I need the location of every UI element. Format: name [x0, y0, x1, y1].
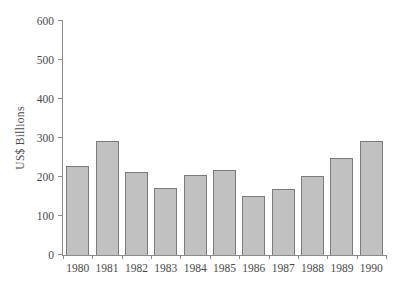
x-axis-label-1986: 1986 [242, 262, 265, 274]
x-axis-tick [298, 255, 299, 259]
y-axis-tick-label: 400 [20, 92, 54, 106]
y-axis-tick-label: 300 [20, 131, 54, 145]
y-axis-tick [58, 59, 63, 60]
x-axis-label-1985: 1985 [213, 262, 236, 274]
x-axis-tick [239, 255, 240, 259]
x-axis-label-1983: 1983 [154, 262, 177, 274]
x-axis-label-1984: 1984 [184, 262, 207, 274]
x-axis-tick [327, 255, 328, 259]
bar-1981 [96, 141, 119, 255]
bar-1989 [330, 158, 353, 255]
x-axis-tick [269, 255, 270, 259]
x-axis-label-1982: 1982 [125, 262, 148, 274]
x-axis-tick [180, 255, 181, 259]
x-axis-tick [386, 255, 387, 259]
x-axis-tick [122, 255, 123, 259]
x-axis-tick [92, 255, 93, 259]
x-axis-tick [357, 255, 358, 259]
bar-1988 [301, 176, 324, 255]
x-axis-label-1990: 1990 [360, 262, 383, 274]
bar-1986 [242, 196, 265, 255]
bar-1983 [154, 188, 177, 255]
x-axis-tick [63, 255, 64, 259]
x-axis-label-1989: 1989 [330, 262, 353, 274]
y-axis-tick [58, 215, 63, 216]
x-axis-tick [151, 255, 152, 259]
y-axis-tick-label: 200 [20, 170, 54, 184]
bar-1987 [272, 189, 295, 255]
bar-1984 [184, 175, 207, 255]
y-axis-tick [58, 137, 63, 138]
bar-1982 [125, 172, 148, 255]
plot-area: 0100200300400500600198019811982198319841… [62, 21, 386, 256]
y-axis-tick-label: 0 [20, 248, 54, 262]
x-axis-tick [210, 255, 211, 259]
y-axis-tick-label: 100 [20, 209, 54, 223]
y-axis-tick [58, 20, 63, 21]
bar-1990 [360, 141, 383, 255]
x-axis-label-1987: 1987 [272, 262, 295, 274]
y-axis-tick-label: 600 [20, 14, 54, 28]
x-axis-label-1980: 1980 [66, 262, 89, 274]
bar-1985 [213, 170, 236, 255]
y-axis-tick [58, 176, 63, 177]
x-axis-label-1981: 1981 [96, 262, 119, 274]
y-axis-tick-label: 500 [20, 53, 54, 67]
bar-chart: US$ Billions 010020030040050060019801981… [0, 0, 396, 293]
y-axis-tick [58, 98, 63, 99]
x-axis-label-1988: 1988 [301, 262, 324, 274]
bar-1980 [66, 166, 89, 255]
